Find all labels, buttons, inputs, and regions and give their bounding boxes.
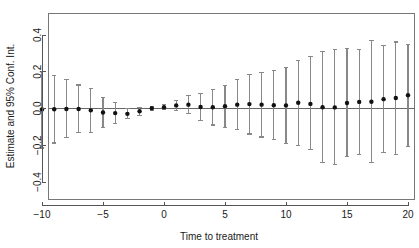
x-axis-tick-label: 5 (222, 209, 228, 220)
x-axis-title: Time to treatment (180, 231, 258, 242)
estimate-point-marker (101, 110, 105, 114)
chart-canvas: −0.4−0.20.00.20.4 −10−505101520 Time to … (0, 0, 419, 248)
estimate-point-marker (357, 100, 361, 104)
estimate-point-marker (235, 102, 239, 106)
x-axis-tick-label: 0 (161, 209, 167, 220)
estimate-point-marker (333, 105, 337, 109)
y-axis-tick-label: 0.0 (32, 101, 43, 115)
estimate-point-marker (162, 105, 166, 109)
estimate-point-marker (394, 96, 398, 100)
estimate-point-marker (308, 102, 312, 106)
estimate-point-marker (211, 105, 215, 109)
estimate-point-marker (52, 107, 56, 111)
x-axis-tick-label: −10 (34, 209, 51, 220)
estimate-point-marker (223, 104, 227, 108)
y-axis-title: Estimate and 95% Conf. Int. (5, 44, 16, 169)
confidence-interval-bars (40, 41, 410, 165)
estimate-point-marker (259, 102, 263, 106)
y-axis-tick-label: 0.4 (32, 28, 43, 42)
estimate-point-marker (64, 107, 68, 111)
estimate-point-marker (247, 102, 251, 106)
y-axis-tick-label: 0.2 (32, 64, 43, 78)
x-axis: −10−505101520 (34, 202, 414, 220)
estimate-point-marker (113, 111, 117, 115)
estimate-point-marker (125, 112, 129, 116)
estimate-point-marker (320, 105, 324, 109)
y-axis-tick-label: −0.4 (32, 172, 43, 192)
x-axis-tick-label: −5 (97, 209, 109, 220)
event-study-figure: −0.4−0.20.00.20.4 −10−505101520 Time to … (0, 0, 419, 248)
estimate-point-marker (272, 103, 276, 107)
estimate-point-marker (150, 106, 154, 110)
estimate-point-marker (198, 105, 202, 109)
x-axis-tick-label: 10 (280, 209, 292, 220)
estimate-point-marker (381, 97, 385, 101)
x-axis-tick-label: 20 (402, 209, 414, 220)
estimate-point-marker (284, 103, 288, 107)
estimate-point-marker (137, 109, 141, 113)
estimate-point-marker (174, 103, 178, 107)
estimate-point-marker (369, 100, 373, 104)
estimate-point-marker (296, 101, 300, 105)
estimate-point-marker (345, 101, 349, 105)
y-axis-tick-label: −0.2 (32, 135, 43, 155)
estimate-point-marker (406, 93, 410, 97)
estimate-point-marker (89, 108, 93, 112)
estimate-point-marker (76, 107, 80, 111)
estimate-point-marker (186, 102, 190, 106)
x-axis-tick-label: 15 (341, 209, 353, 220)
